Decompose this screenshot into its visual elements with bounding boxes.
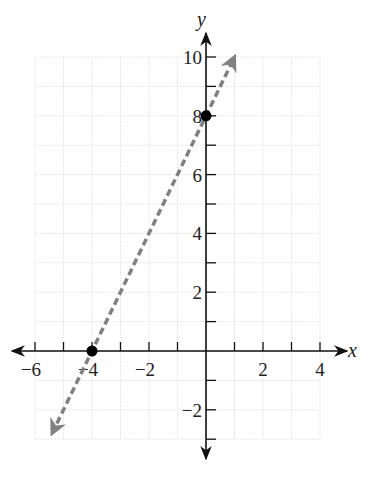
intercept-point — [201, 110, 212, 121]
y-tick-label: 4 — [193, 223, 203, 244]
x-tick-label: −6 — [21, 359, 41, 380]
x-tick-label: 2 — [258, 359, 268, 380]
y-axis-label: y — [195, 8, 206, 31]
x-axis-label: x — [347, 339, 357, 361]
y-tick-label: 10 — [183, 47, 202, 68]
x-tick-label: 4 — [315, 359, 325, 380]
y-tick-label: 2 — [193, 282, 203, 303]
y-tick-label: 6 — [193, 165, 203, 186]
x-tick-label: −2 — [135, 359, 155, 380]
axes — [12, 33, 347, 459]
y-tick-label: −2 — [182, 400, 202, 421]
intercept-point — [87, 346, 98, 357]
coordinate-plane: −6−4−224−2246810 x y — [0, 0, 383, 489]
